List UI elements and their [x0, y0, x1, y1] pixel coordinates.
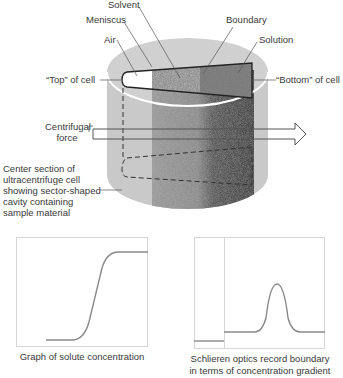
schlieren-gradient-graph	[194, 237, 325, 349]
label-solvent: Solvent	[108, 0, 140, 10]
label-bottom-of-cell: “Bottom” of cell	[276, 74, 340, 85]
label-top-of-cell: “Top” of cell	[46, 74, 95, 85]
label-centrifugal-line1: Centrifugal	[45, 121, 89, 132]
caption-schlieren-line1: Schlieren optics record boundary	[182, 353, 338, 365]
label-center-section-line1: Center section of	[3, 163, 101, 174]
caption-solute-concentration: Graph of solute concentration	[6, 351, 158, 363]
label-boundary: Boundary	[226, 14, 267, 25]
caption-schlieren: Schlieren optics record boundary in term…	[182, 353, 338, 376]
label-centrifugal-line2: force	[45, 132, 89, 143]
label-center-section: Center section of ultracentrifuge cell s…	[3, 163, 101, 218]
label-meniscus: Meniscus	[86, 14, 126, 25]
label-air: Air	[104, 34, 116, 45]
label-centrifugal-force: Centrifugal force	[45, 121, 89, 143]
label-center-section-line3: showing sector-shaped	[3, 185, 101, 196]
caption-schlieren-line2: in terms of concentration gradient	[182, 365, 338, 377]
label-center-section-line5: sample material	[3, 207, 101, 218]
label-center-section-line4: cavity containing	[3, 196, 101, 207]
label-solution: Solution	[259, 34, 293, 45]
label-center-section-line2: ultracentrifuge cell	[3, 174, 101, 185]
solute-concentration-graph	[17, 238, 149, 347]
